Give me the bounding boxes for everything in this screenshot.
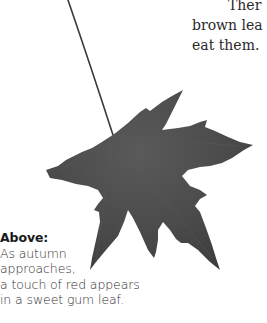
caption-line: approaches, [0, 261, 140, 277]
leaf-stem [68, 0, 113, 135]
figure-caption: Above: As autumn approaches, a touch of … [0, 230, 140, 308]
caption-line: a touch of red appears [0, 277, 140, 293]
caption-line: As autumn [0, 246, 140, 262]
caption-line: in a sweet gum leaf. [0, 292, 140, 308]
caption-heading: Above: [0, 230, 140, 246]
